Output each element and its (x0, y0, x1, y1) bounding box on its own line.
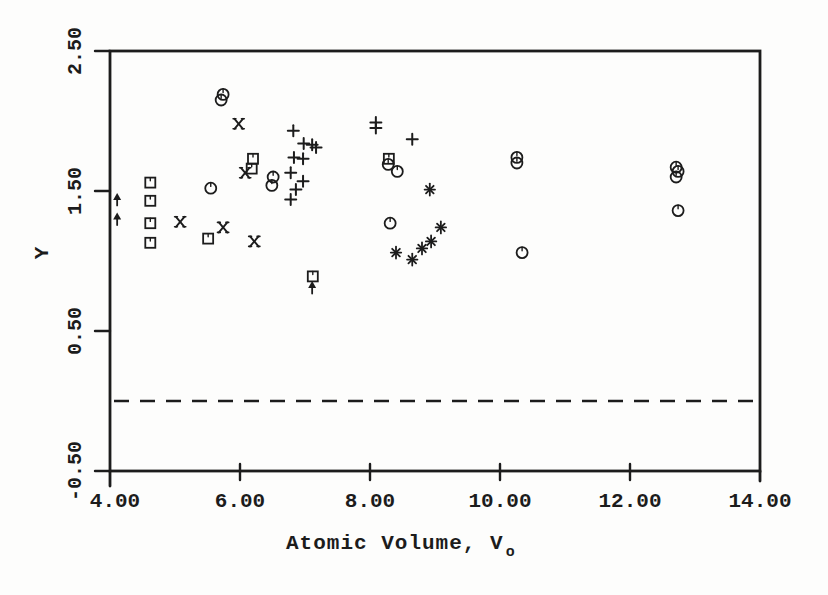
x-axis-label: Atomic Volume, Vo (286, 532, 516, 555)
x-tick-label: 10.00 (468, 490, 531, 513)
data-point-plus-marker (290, 184, 301, 195)
data-point-x-marker (218, 222, 229, 232)
plot-frame (110, 51, 760, 471)
data-point-up-arrow-marker (113, 193, 121, 206)
plot-area: 4.006.008.0010.0012.0014.002.501.500.50-… (0, 0, 828, 595)
data-point-circle-marker (517, 247, 528, 258)
data-point-circle-marker (205, 183, 216, 194)
data-point-x-marker (175, 217, 186, 227)
data-point-asterisk-marker (426, 235, 436, 247)
data-point-plus-marker (370, 123, 381, 134)
data-point-plus-marker (298, 153, 309, 164)
data-point-plus-marker (285, 194, 296, 205)
data-point-plus-marker (288, 125, 299, 136)
data-point-square-marker (145, 178, 155, 188)
data-point-square-marker (145, 218, 155, 228)
x-tick-label: 12.00 (598, 490, 661, 513)
x-tick-label: 8.00 (345, 490, 395, 513)
y-tick-label: 1.50 (64, 167, 87, 215)
y-tick-label: 0.50 (64, 307, 87, 355)
data-point-x-marker (233, 119, 244, 129)
data-point-circle-marker (673, 205, 684, 216)
data-point-plus-marker (285, 167, 296, 178)
data-point-asterisk-marker (407, 254, 417, 266)
x-tick-label: 6.00 (215, 490, 265, 513)
data-point-asterisk-marker (391, 247, 401, 259)
data-point-up-arrow-marker (308, 281, 316, 294)
data-point-plus-marker (298, 138, 309, 149)
x-axis-label-text: Atomic Volume, V (286, 532, 504, 555)
data-point-asterisk-marker (425, 184, 435, 196)
data-point-circle-marker (385, 218, 396, 229)
y-tick-label: -0.50 (64, 441, 87, 501)
data-point-x-marker (249, 236, 260, 246)
data-point-square-marker (308, 271, 318, 281)
data-point-asterisk-marker (436, 221, 446, 233)
data-point-circle-marker (392, 166, 403, 177)
x-tick-label: 4.00 (90, 490, 140, 513)
x-tick-label: 14.00 (728, 490, 791, 513)
data-point-plus-marker (407, 134, 418, 145)
data-point-plus-marker (288, 152, 299, 163)
y-tick-label: 2.50 (64, 27, 87, 75)
x-axis-label-subscript: o (506, 544, 516, 561)
data-point-square-marker (145, 196, 155, 206)
data-point-square-marker (203, 234, 213, 244)
data-point-up-arrow-marker (113, 213, 121, 226)
data-point-plus-marker (298, 176, 309, 187)
data-point-square-marker (145, 238, 155, 248)
data-point-asterisk-marker (417, 242, 427, 254)
y-axis-label: Y (31, 246, 54, 260)
data-point-square-marker (248, 154, 258, 164)
data-point-circle-marker (266, 180, 277, 191)
scanned-figure-page: 4.006.008.0010.0012.0014.002.501.500.50-… (0, 0, 828, 595)
